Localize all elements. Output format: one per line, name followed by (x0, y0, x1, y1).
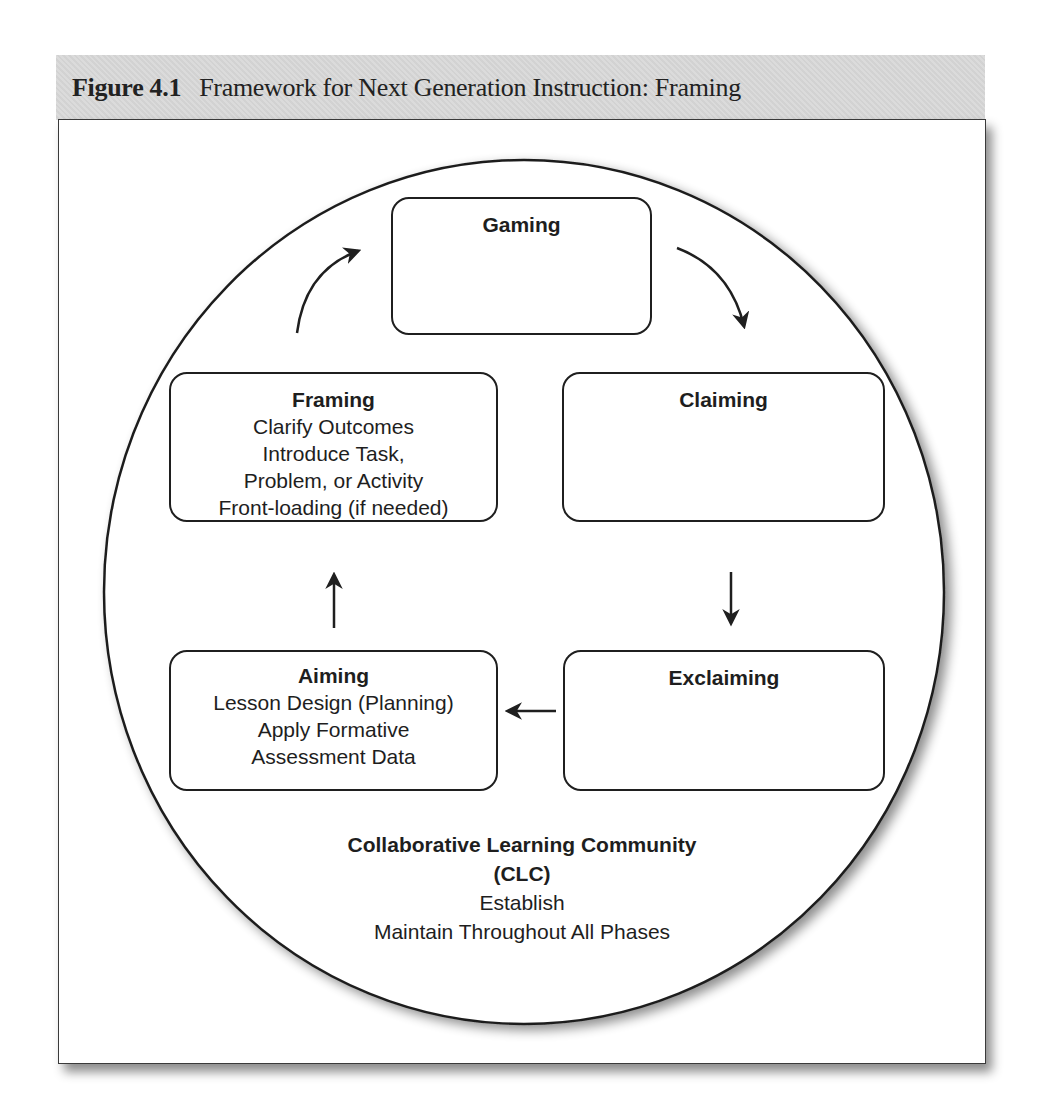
framing-line-4: Front-loading (if needed) (171, 494, 496, 521)
aiming-line-1: Lesson Design (Planning) (171, 689, 496, 716)
phase-title-claiming: Claiming (564, 386, 883, 413)
phase-box-claiming: Claiming (562, 372, 885, 522)
figure-title: Framework for Next Generation Instructio… (199, 73, 741, 103)
community-title: Collaborative Learning Community (262, 830, 782, 859)
framing-line-1: Clarify Outcomes (171, 413, 496, 440)
phase-box-framing: Framing Clarify Outcomes Introduce Task,… (169, 372, 498, 522)
aiming-line-2: Apply Formative (171, 716, 496, 743)
phase-box-gaming: Gaming (391, 197, 652, 335)
community-line-2: Maintain Throughout All Phases (262, 917, 782, 946)
community-abbrev: (CLC) (262, 859, 782, 888)
community-line-1: Establish (262, 888, 782, 917)
phase-box-exclaiming: Exclaiming (563, 650, 885, 791)
phase-box-aiming: Aiming Lesson Design (Planning) Apply Fo… (169, 650, 498, 791)
phase-title-exclaiming: Exclaiming (565, 664, 883, 691)
phase-title-aiming: Aiming (171, 662, 496, 689)
aiming-line-3: Assessment Data (171, 743, 496, 770)
framing-line-2: Introduce Task, (171, 440, 496, 467)
framing-line-3: Problem, or Activity (171, 467, 496, 494)
figure-caption-bar: Figure 4.1 Framework for Next Generation… (56, 55, 985, 120)
phase-title-gaming: Gaming (393, 211, 650, 238)
phase-title-framing: Framing (171, 386, 496, 413)
community-label: Collaborative Learning Community (CLC) E… (262, 830, 782, 946)
figure-label: Figure 4.1 (72, 73, 181, 103)
